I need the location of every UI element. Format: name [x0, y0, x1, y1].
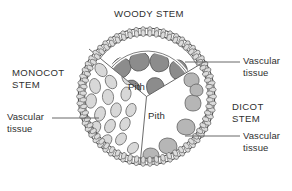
label-pith-lower: Pith [148, 110, 165, 122]
label-vascular-tissue-bottom-right: Vascular tissue [243, 130, 280, 153]
label-vascular-tissue-top-right: Vascular tissue [243, 55, 280, 78]
epidermis-cell [206, 91, 213, 96]
stem-diagram-svg [0, 0, 292, 191]
epidermis-cell [147, 156, 152, 163]
epidermis-cell [206, 97, 213, 102]
label-pith-upper: Pith [128, 81, 145, 93]
label-dicot-stem: DICOT STEM [232, 101, 264, 124]
label-vascular-tissue-left: Vascular tissue [7, 111, 44, 134]
epidermis-cell [147, 30, 152, 37]
label-monocot-stem: MONOCOT STEM [12, 67, 65, 90]
epidermis-cell [141, 30, 146, 37]
epidermis-cell [141, 156, 146, 163]
vascular-bundle [190, 84, 203, 96]
vascular-bundle [177, 119, 195, 135]
epidermis-cell [80, 91, 87, 96]
vascular-bundle [185, 95, 201, 111]
stem-cross-section-diagram: WOODY STEM MONOCOT STEM DICOT STEM Vascu… [0, 0, 292, 191]
page-title: WOODY STEM [104, 8, 194, 20]
epidermis-cell [80, 97, 87, 102]
